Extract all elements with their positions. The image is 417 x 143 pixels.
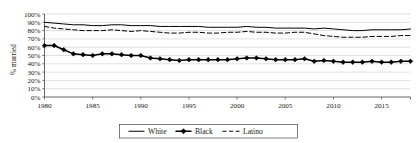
data-point bbox=[293, 57, 298, 62]
line-chart: 100%90%80%70%60%50%40%30%20%10%0%1980198… bbox=[0, 0, 417, 143]
data-point bbox=[254, 56, 259, 61]
x-tick-labels: 19801985199019952000200520102015 bbox=[37, 102, 389, 110]
x-tick-label: 2010 bbox=[326, 102, 341, 110]
data-point bbox=[167, 57, 172, 62]
data-point bbox=[235, 57, 240, 62]
y-tick-label: 80% bbox=[27, 27, 40, 35]
data-point bbox=[148, 56, 153, 61]
data-point bbox=[81, 52, 86, 57]
data-point bbox=[244, 56, 249, 61]
x-tick-label: 1990 bbox=[134, 102, 149, 110]
y-tick-label: 30% bbox=[27, 69, 40, 77]
y-tick-label: 0% bbox=[31, 94, 41, 102]
data-point bbox=[399, 59, 404, 64]
data-point bbox=[119, 52, 124, 57]
data-point bbox=[408, 59, 413, 64]
data-point bbox=[312, 59, 317, 64]
y-tick-label: 10% bbox=[27, 85, 40, 93]
series-line-white bbox=[45, 22, 411, 30]
data-point bbox=[273, 57, 278, 62]
x-tick-label: 2000 bbox=[230, 102, 245, 110]
y-tick-label: 60% bbox=[27, 44, 40, 52]
data-point bbox=[322, 58, 327, 63]
x-tick-label: 2005 bbox=[278, 102, 293, 110]
legend: WhiteBlackLatino bbox=[120, 125, 298, 139]
y-tick-label: 20% bbox=[27, 77, 40, 85]
data-point bbox=[196, 57, 201, 62]
legend-label-black: Black bbox=[195, 127, 213, 136]
y-tick-label: 100% bbox=[24, 11, 41, 19]
data-point bbox=[61, 47, 66, 52]
data-point bbox=[158, 57, 163, 62]
series-group bbox=[42, 22, 413, 64]
legend-label-latino: Latino bbox=[243, 127, 263, 136]
x-tick-label: 2015 bbox=[375, 102, 390, 110]
data-point bbox=[216, 57, 221, 62]
data-point bbox=[331, 59, 336, 64]
data-point bbox=[90, 53, 95, 58]
legend-label-white: White bbox=[148, 127, 167, 136]
data-point bbox=[225, 57, 230, 62]
x-tick-label: 1985 bbox=[86, 102, 101, 110]
y-tick-label: 50% bbox=[27, 52, 40, 60]
series-markers-black bbox=[42, 43, 413, 64]
series-line-latino bbox=[45, 26, 411, 37]
y-tick-label: 90% bbox=[27, 19, 40, 27]
x-tick-label: 1995 bbox=[182, 102, 197, 110]
data-point bbox=[129, 53, 134, 58]
data-point bbox=[206, 57, 211, 62]
data-point bbox=[139, 53, 144, 58]
data-point bbox=[370, 59, 375, 64]
data-point bbox=[177, 58, 182, 63]
x-tick-label: 1980 bbox=[37, 102, 52, 110]
data-point bbox=[264, 57, 269, 62]
chart-container: % married 100%90%80%70%60%50%40%30%20%10… bbox=[0, 0, 417, 143]
data-point bbox=[302, 57, 307, 62]
y-tick-label: 40% bbox=[27, 60, 40, 68]
y-tick-label: 70% bbox=[27, 35, 40, 43]
y-tick-labels: 100%90%80%70%60%50%40%30%20%10%0% bbox=[24, 11, 41, 102]
data-point bbox=[283, 57, 288, 62]
data-point bbox=[187, 57, 192, 62]
